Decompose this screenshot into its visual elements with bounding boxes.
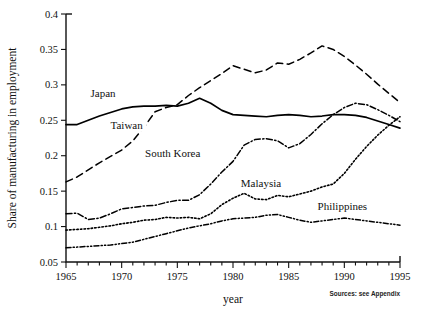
y-tick-label: 0.15 xyxy=(40,186,58,197)
y-axis-title: Share of manufacturing in employment xyxy=(6,47,19,229)
plot-background xyxy=(0,0,429,313)
y-tick-label: 0.4 xyxy=(45,9,59,20)
x-tick-label: 1990 xyxy=(334,271,355,282)
x-tick-label: 1970 xyxy=(111,271,132,282)
y-tick-label: 0.35 xyxy=(40,44,58,55)
source-note: Sources: see Appendix xyxy=(330,290,401,298)
x-tick-label: 1995 xyxy=(390,271,411,282)
x-tick-label: 1985 xyxy=(278,271,299,282)
x-tick-label: 1965 xyxy=(56,271,77,282)
y-tick-label: 0.2 xyxy=(45,150,58,161)
x-tick-label: 1975 xyxy=(167,271,188,282)
series-label-taiwan: Taiwan xyxy=(111,119,144,131)
y-tick-label: 0.25 xyxy=(40,115,58,126)
series-label-japan: Japan xyxy=(90,87,116,99)
y-tick-label: 0.1 xyxy=(45,221,58,232)
y-tick-label: 0.05 xyxy=(40,257,58,268)
line-chart: 0.050.10.150.20.250.30.350.4196519701975… xyxy=(0,0,429,313)
series-label-south-korea: South Korea xyxy=(145,147,200,159)
series-label-philippines: Philippines xyxy=(318,200,368,212)
y-tick-label: 0.3 xyxy=(45,79,58,90)
x-tick-label: 1980 xyxy=(223,271,244,282)
chart-page: 0.050.10.150.20.250.30.350.4196519701975… xyxy=(0,0,429,313)
series-label-malaysia: Malaysia xyxy=(241,177,281,189)
x-axis-title: year xyxy=(223,293,243,306)
